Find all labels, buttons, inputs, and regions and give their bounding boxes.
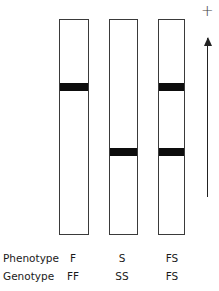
band-slow [110, 148, 137, 156]
genotype-lane-2: SS [102, 270, 142, 282]
gel-lane-1 [59, 19, 89, 235]
gel-lane-2 [109, 19, 138, 235]
genotype-lane-3: FS [152, 270, 192, 282]
band-slow [159, 148, 184, 156]
migration-arrow-icon [207, 38, 208, 197]
phenotype-row-label: Phenotype [3, 252, 59, 264]
band-fast [159, 83, 184, 91]
gel-lane-3 [158, 19, 185, 235]
genotype-lane-1: FF [53, 270, 93, 282]
phenotype-lane-2: S [102, 252, 142, 264]
phenotype-lane-1: F [53, 252, 93, 264]
genotype-row-label: Genotype [3, 270, 54, 282]
phenotype-lane-3: FS [152, 252, 192, 264]
band-fast [60, 83, 88, 91]
positive-pole-symbol: + [201, 4, 214, 19]
